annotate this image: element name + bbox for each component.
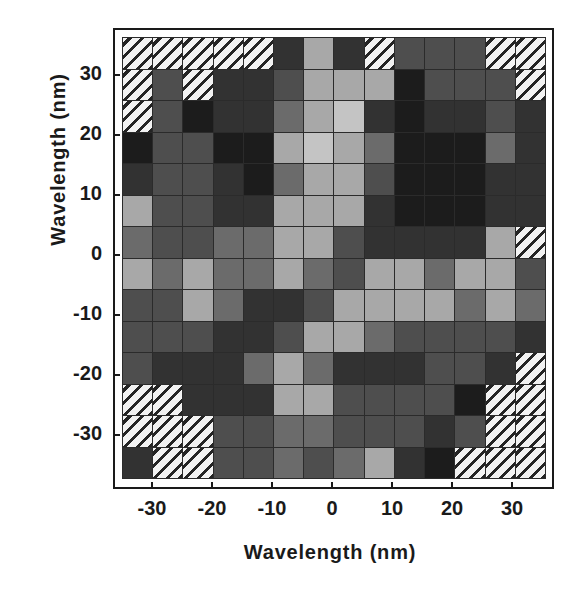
heatmap-cell	[395, 227, 424, 258]
heatmap-cell	[214, 448, 243, 479]
heatmap-figure: Wavelength (nm) Wavelength (nm) 3020100-…	[0, 0, 582, 603]
heatmap-cell	[455, 70, 484, 101]
heatmap-cell	[486, 196, 515, 227]
heatmap-cell	[365, 322, 394, 353]
heatmap-cell	[274, 38, 303, 69]
y-tick-label: 20	[32, 122, 102, 145]
heatmap-cell	[153, 196, 182, 227]
heatmap-cell	[455, 196, 484, 227]
heatmap-cell	[365, 259, 394, 290]
heatmap-cell	[214, 416, 243, 447]
y-tick-mark	[113, 134, 120, 136]
heatmap-cell	[123, 101, 152, 132]
heatmap-cell	[274, 227, 303, 258]
y-tick-mark	[113, 434, 120, 436]
heatmap-cell	[365, 416, 394, 447]
heatmap-cell	[334, 259, 363, 290]
heatmap-cell	[153, 164, 182, 195]
heatmap-cell	[486, 101, 515, 132]
heatmap-cell	[244, 227, 273, 258]
heatmap-cell	[274, 416, 303, 447]
heatmap-cell	[123, 448, 152, 479]
heatmap-cell	[486, 416, 515, 447]
heatmap-cell	[304, 448, 333, 479]
x-tick-label: -20	[182, 497, 242, 520]
heatmap-cell	[274, 70, 303, 101]
heatmap-cell	[365, 133, 394, 164]
heatmap-cell	[183, 322, 212, 353]
heatmap-cell	[455, 448, 484, 479]
heatmap-cell	[455, 385, 484, 416]
y-tick-label: -20	[32, 362, 102, 385]
heatmap-cell	[183, 70, 212, 101]
heatmap-cell	[304, 416, 333, 447]
heatmap-cell	[183, 227, 212, 258]
heatmap-cell	[304, 353, 333, 384]
heatmap-cell	[516, 70, 545, 101]
y-tick-label: -10	[32, 302, 102, 325]
heatmap-cell	[425, 38, 454, 69]
heatmap-cell	[274, 196, 303, 227]
heatmap-cell	[244, 259, 273, 290]
heatmap-cell	[244, 353, 273, 384]
heatmap-cell	[153, 290, 182, 321]
heatmap-cell	[244, 448, 273, 479]
heatmap-cell	[365, 101, 394, 132]
heatmap-cell	[274, 164, 303, 195]
heatmap-cell	[274, 322, 303, 353]
heatmap-grid	[122, 37, 546, 479]
heatmap-cell	[395, 196, 424, 227]
x-tick-label: -10	[242, 497, 302, 520]
heatmap-cell	[123, 133, 152, 164]
heatmap-cell	[244, 164, 273, 195]
heatmap-cell	[425, 290, 454, 321]
heatmap-cell	[486, 70, 515, 101]
heatmap-cell	[153, 101, 182, 132]
heatmap-cell	[153, 70, 182, 101]
heatmap-cell	[395, 133, 424, 164]
heatmap-cell	[395, 385, 424, 416]
heatmap-cell	[334, 227, 363, 258]
heatmap-cell	[516, 353, 545, 384]
heatmap-cell	[304, 322, 333, 353]
y-tick-mark	[113, 374, 120, 376]
heatmap-cell	[334, 133, 363, 164]
heatmap-cell	[123, 164, 152, 195]
heatmap-cell	[395, 353, 424, 384]
heatmap-cell	[516, 416, 545, 447]
heatmap-cell	[153, 38, 182, 69]
heatmap-cell	[123, 227, 152, 258]
heatmap-cell	[214, 196, 243, 227]
heatmap-cell	[455, 38, 484, 69]
heatmap-cell	[214, 353, 243, 384]
heatmap-cell	[214, 290, 243, 321]
heatmap-cell	[425, 416, 454, 447]
heatmap-cell	[455, 101, 484, 132]
heatmap-cell	[214, 101, 243, 132]
heatmap-cell	[365, 290, 394, 321]
heatmap-cell	[365, 448, 394, 479]
y-tick-mark	[113, 254, 120, 256]
x-tick-mark	[451, 482, 453, 489]
heatmap-cell	[123, 259, 152, 290]
heatmap-cell	[486, 164, 515, 195]
heatmap-cell	[425, 164, 454, 195]
heatmap-cell	[244, 38, 273, 69]
heatmap-cell	[304, 290, 333, 321]
heatmap-cell	[425, 259, 454, 290]
heatmap-cell	[123, 416, 152, 447]
x-tick-mark	[511, 482, 513, 489]
heatmap-cell	[455, 227, 484, 258]
heatmap-cell	[425, 385, 454, 416]
heatmap-cell	[365, 353, 394, 384]
heatmap-cell	[486, 133, 515, 164]
heatmap-cell	[153, 259, 182, 290]
y-tick-mark	[113, 74, 120, 76]
heatmap-cell	[274, 133, 303, 164]
x-tick-mark	[391, 482, 393, 489]
heatmap-cell	[183, 416, 212, 447]
heatmap-cell	[334, 164, 363, 195]
heatmap-cell	[304, 70, 333, 101]
heatmap-cell	[183, 353, 212, 384]
heatmap-cell	[395, 416, 424, 447]
